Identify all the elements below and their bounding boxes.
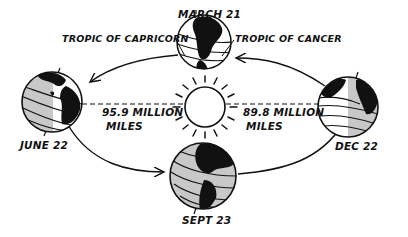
orbit-diagram: MARCH 21 TROPIC OF CAPRICORN TROPIC OF C… [0,0,408,237]
earth-june-22 [20,68,82,136]
earth-sept-23 [170,143,236,214]
label-tropic-of-cancer: TROPIC OF CANCER [235,33,342,44]
label-june-22: JUNE 22 [20,139,68,151]
orbit-arrow-march-to-june [90,55,178,82]
label-tropic-of-capricorn: TROPIC OF CAPRICORN [62,33,189,44]
label-sept-23: SEPT 23 [182,214,231,226]
orbit-arrow-dec-to-march [236,58,325,86]
label-dec-22: DEC 22 [335,140,378,152]
distance-june-line1: 95.9 MILLION [102,106,183,118]
label-march-21: MARCH 21 [178,8,241,20]
earth-dec-22 [318,72,380,138]
orbit-arrow-june-to-sept [68,125,164,172]
distance-dec-line2: MILES [246,120,283,132]
distance-dec-line1: 89.8 MILLION [243,106,324,118]
distance-june-line2: MILES [106,120,143,132]
